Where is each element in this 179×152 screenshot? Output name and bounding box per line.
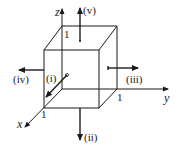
unit-cube-diagram: z y x 1 1 1 (v) (iii) (iv) (i) (ii): [0, 0, 179, 152]
z-tick-label: 1: [64, 28, 70, 40]
label-iii: (iii): [126, 73, 143, 86]
label-iv: (iv): [13, 73, 29, 86]
label-v: (v): [83, 4, 96, 17]
normal-arrow-iv: (iv): [13, 70, 44, 86]
label-i: (i): [46, 72, 57, 85]
normal-arrow-v: (v): [79, 4, 96, 42]
normal-arrow-ii: (ii): [80, 108, 98, 144]
label-ii: (ii): [84, 131, 98, 144]
y-tick-label: 1: [117, 91, 123, 103]
x-tick-label: 1: [41, 108, 47, 120]
x-axis-label: x: [16, 117, 23, 131]
z-axis-label: z: [54, 5, 60, 19]
normal-arrow-iii: (iii): [108, 66, 143, 86]
y-axis-label: y: [163, 91, 170, 105]
